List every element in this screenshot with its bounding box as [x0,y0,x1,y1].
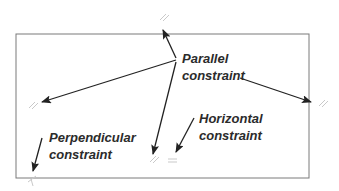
constraint-diagram: Parallel constraint Horizontal constrain… [0,0,339,191]
horizontal-mark [168,159,177,162]
arrow-parallel-right [240,78,311,102]
parallel-label-line1: Parallel [182,51,229,66]
arrow-parallel-left [42,60,176,102]
arrow-horizontal [176,118,194,152]
arrow-parallel-bottom [153,62,176,154]
parallel-mark-right [319,100,328,107]
arrow-perpendicular [33,138,42,171]
parallel-mark-top [160,14,169,21]
perpendicular-label-line1: Perpendicular [49,130,137,145]
horizontal-label-line2: constraint [199,128,263,143]
parallel-mark-bottom [150,156,159,163]
parallel-label-line2: constraint [182,68,246,83]
parallel-mark-left [29,102,38,109]
horizontal-label-line1: Horizontal [199,111,263,126]
perpendicular-label-line2: constraint [49,147,113,162]
